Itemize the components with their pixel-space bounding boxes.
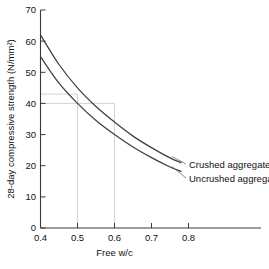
x-tick-marks [41,223,189,228]
y-tick-label-40: 40 [25,98,36,109]
chart-figure: 0 10 20 30 40 50 60 70 0.4 0.5 0.6 0.7 0… [0,0,269,269]
series-label-crushed-aggregates: Crushed aggregates [189,159,269,170]
x-axis-title: Free w/c [96,247,133,258]
y-tick-label-70: 70 [25,4,36,15]
y-tick-label-20: 20 [25,160,36,171]
y-tick-label-10: 10 [25,191,36,202]
y-tick-labels: 0 10 20 30 40 50 60 70 [25,4,36,233]
series-label-uncrushed-aggregates: Uncrushed aggregates [189,173,269,184]
y-tick-label-50: 50 [25,67,36,78]
y-axis-title: 28-day compressive strength (N/mm²) [5,39,16,198]
x-tick-label-0.8: 0.8 [182,232,195,243]
x-tick-label-0.6: 0.6 [108,232,121,243]
y-tick-label-30: 30 [25,129,36,140]
x-tick-labels: 0.4 0.5 0.6 0.7 0.8 [34,232,195,243]
curve-crushed-aggregates-main [41,35,182,163]
curve-uncrushed-aggregates-main [41,57,182,172]
construction-lines [41,94,115,228]
x-tick-label-0.7: 0.7 [145,232,158,243]
x-tick-label-0.4: 0.4 [34,232,47,243]
x-tick-label-0.5: 0.5 [71,232,84,243]
compressive-strength-vs-wc-chart: 0 10 20 30 40 50 60 70 0.4 0.5 0.6 0.7 0… [0,0,269,269]
y-tick-label-60: 60 [25,36,36,47]
leader-line-uncrushed [172,167,186,179]
